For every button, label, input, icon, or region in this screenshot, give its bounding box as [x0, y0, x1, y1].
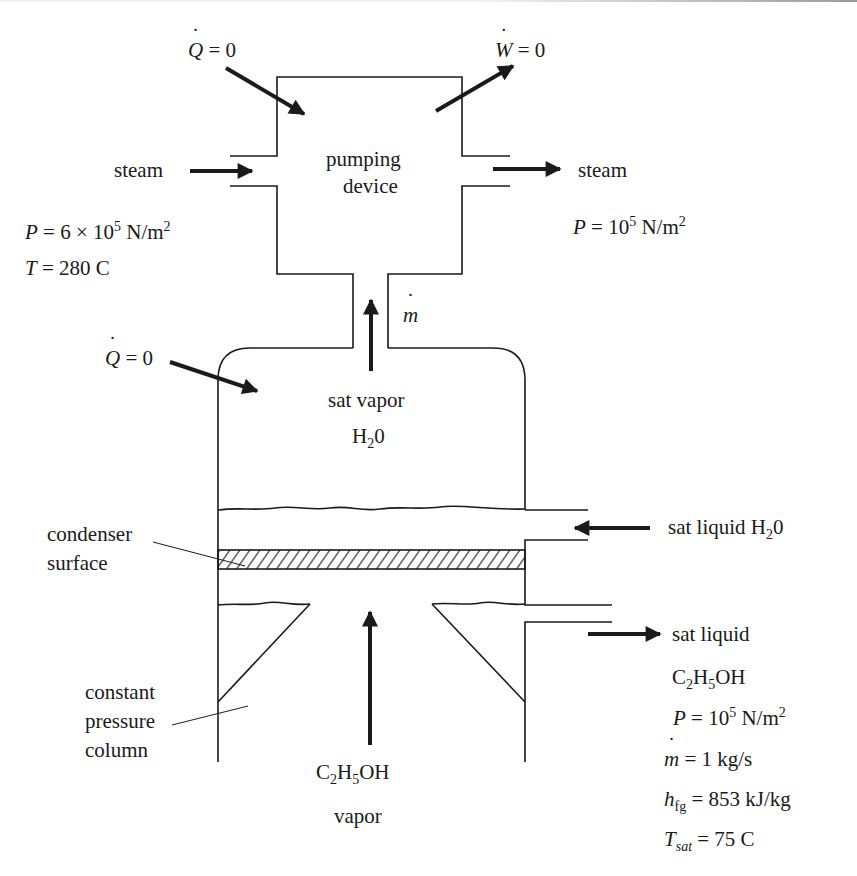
- steam-in-pressure: P = 6 × 105 N/m2: [25, 220, 171, 244]
- ethanol-vapor-label: vapor: [334, 804, 382, 828]
- chamber-heat-label: Q = 0: [105, 346, 153, 370]
- work-arrow-pump: [436, 66, 513, 111]
- heat-arrow-chamber: [170, 362, 257, 391]
- column-label-line3: column: [85, 738, 148, 762]
- sat-vapor-label: sat vapor: [328, 388, 404, 412]
- condenser-label-line2: surface: [47, 551, 108, 575]
- pump-work-label: W = 0: [495, 38, 545, 62]
- water-surface: [218, 506, 525, 510]
- ethanol-mass-flow: m = 1 kg/s: [664, 747, 752, 771]
- column-label-line1: constant: [85, 680, 155, 704]
- pump-outline-left: [230, 77, 510, 156]
- ethanol-tsat: Tsat = 75 C: [664, 827, 755, 851]
- neck-mass-flow-label: m: [403, 303, 418, 327]
- chamber-top-right: [388, 348, 525, 510]
- pump-outline-lower-left: [230, 186, 353, 348]
- h2o-vapor-label: H20: [352, 424, 385, 448]
- pump-label-line2: device: [343, 174, 398, 198]
- steam-in-temperature: T = 280 C: [25, 256, 110, 280]
- ethanol-out-pressure: P = 105 N/m2: [673, 706, 786, 730]
- water-inlet-label: sat liquid H20: [668, 515, 784, 539]
- steam-out-pressure: P = 105 N/m2: [573, 215, 686, 239]
- heat-arrow-pump: [226, 68, 304, 114]
- pump-heat-label: Q = 0: [188, 38, 236, 62]
- steam-in-label: steam: [114, 158, 163, 182]
- ethanol-out-label: sat liquid: [672, 622, 750, 646]
- ethanol-vapor-formula: C2H5OH: [316, 760, 390, 784]
- condenser-plate: [218, 550, 525, 569]
- column-label-line2: pressure: [85, 709, 155, 733]
- pump-label-line1: pumping: [326, 147, 401, 171]
- ethanol-out-formula: C2H5OH: [672, 665, 746, 689]
- condenser-label-line1: condenser: [47, 522, 132, 546]
- steam-out-label: steam: [578, 158, 627, 182]
- ethanol-hfg: hfg = 853 kJ/kg: [664, 787, 791, 811]
